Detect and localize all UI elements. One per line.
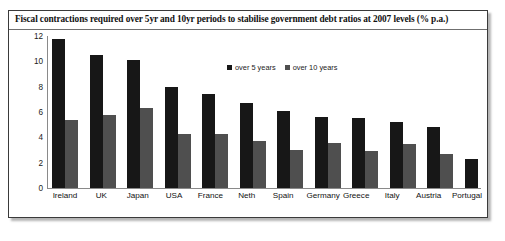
x-axis-line bbox=[47, 188, 481, 189]
bar-ireland-series-0 bbox=[52, 39, 65, 188]
bar-japan-series-0 bbox=[127, 60, 140, 188]
bar-group-usa bbox=[165, 36, 191, 188]
bar-uk-series-1 bbox=[103, 115, 116, 188]
chart-figure: Fiscal contractions required over 5yr an… bbox=[8, 10, 488, 218]
bar-spain-series-0 bbox=[277, 111, 290, 188]
bar-uk-series-0 bbox=[90, 55, 103, 188]
y-tick-label: 6 bbox=[13, 108, 43, 117]
x-tick-label: Japan bbox=[125, 191, 151, 200]
bar-group-france bbox=[202, 36, 228, 188]
bar-series-container bbox=[48, 36, 481, 188]
x-tick-label: Portugal bbox=[452, 191, 478, 200]
bar-portugal-series-0 bbox=[465, 159, 478, 188]
bar-group-portugal bbox=[465, 36, 478, 188]
x-axis-labels: IrelandUKJapanUSAFranceNethSpainGermanyG… bbox=[48, 191, 481, 200]
x-tick-label: Austria bbox=[416, 191, 442, 200]
x-tick-label: Ireland bbox=[52, 191, 78, 200]
bar-group-ireland bbox=[52, 36, 78, 188]
y-tick-label: 10 bbox=[13, 57, 43, 66]
x-tick-label: UK bbox=[88, 191, 114, 200]
bar-france-series-0 bbox=[202, 94, 215, 188]
bar-france-series-1 bbox=[215, 134, 228, 188]
bar-group-uk bbox=[90, 36, 116, 188]
plot-area: over 5 yearsover 10 years 121086420 Irel… bbox=[9, 30, 487, 217]
bar-italy-series-1 bbox=[403, 144, 416, 188]
bar-usa-series-0 bbox=[165, 87, 178, 188]
x-tick-label: Greece bbox=[343, 191, 369, 200]
bar-group-italy bbox=[390, 36, 416, 188]
bar-greece-series-1 bbox=[365, 151, 378, 188]
bar-group-germany bbox=[315, 36, 341, 188]
bar-group-greece bbox=[352, 36, 378, 188]
bar-germany-series-0 bbox=[315, 117, 328, 188]
y-tick-label: 8 bbox=[13, 82, 43, 91]
bar-neth-series-1 bbox=[253, 141, 266, 188]
x-tick-label: Spain bbox=[270, 191, 296, 200]
bar-ireland-series-1 bbox=[65, 120, 78, 188]
x-tick-label: France bbox=[197, 191, 223, 200]
x-tick-label: Neth bbox=[234, 191, 260, 200]
x-tick-label: Italy bbox=[379, 191, 405, 200]
bar-japan-series-1 bbox=[140, 108, 153, 188]
y-tick-label: 4 bbox=[13, 133, 43, 142]
bar-greece-series-0 bbox=[352, 118, 365, 188]
chart-title-band: Fiscal contractions required over 5yr an… bbox=[9, 11, 487, 30]
y-tick-label: 12 bbox=[13, 32, 43, 41]
bar-group-spain bbox=[277, 36, 303, 188]
bar-group-japan bbox=[127, 36, 153, 188]
bar-neth-series-0 bbox=[240, 103, 253, 188]
bar-group-austria bbox=[427, 36, 453, 188]
bar-usa-series-1 bbox=[178, 134, 191, 188]
y-axis-labels: 121086420 bbox=[9, 30, 43, 217]
y-tick-label: 0 bbox=[13, 184, 43, 193]
x-tick-label: USA bbox=[161, 191, 187, 200]
bar-austria-series-0 bbox=[427, 127, 440, 188]
bar-germany-series-1 bbox=[328, 143, 341, 188]
bar-group-neth bbox=[240, 36, 266, 188]
x-tick-label: Germany bbox=[307, 191, 333, 200]
chart-title: Fiscal contractions required over 5yr an… bbox=[15, 14, 448, 24]
bar-austria-series-1 bbox=[440, 154, 453, 188]
y-tick-label: 2 bbox=[13, 158, 43, 167]
bar-spain-series-1 bbox=[290, 150, 303, 188]
bar-italy-series-0 bbox=[390, 122, 403, 189]
